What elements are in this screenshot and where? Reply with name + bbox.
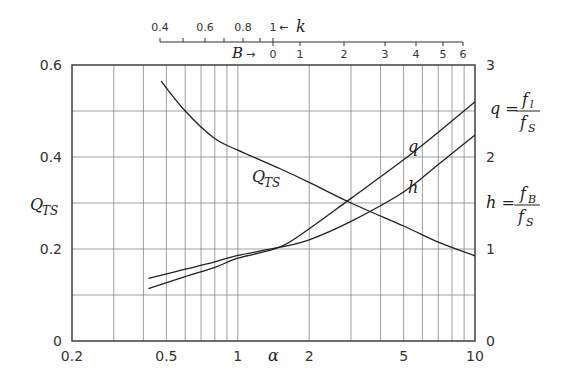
left-axis-label: Q TS [30, 195, 58, 218]
right-tick-label: 3 [486, 57, 495, 73]
left-tick-label: 0.6 [40, 57, 62, 73]
svg-text:q =: q = [490, 99, 519, 118]
svg-text:l: l [530, 98, 534, 111]
b-tick-label: 3 [382, 48, 389, 61]
svg-text:B: B [527, 193, 536, 206]
svg-text:TS: TS [42, 204, 58, 218]
gridlines [72, 65, 475, 341]
k-tick-label: 0.6 [196, 21, 214, 34]
k-tick-label: 1 [270, 21, 277, 34]
right-axis-label-q: q = f l f S [490, 90, 540, 135]
right-axis-label-h: h = f B f S [486, 184, 540, 229]
x-tick-label: 0.2 [61, 348, 83, 364]
top-axis: 0.40.60.810123456 [151, 21, 466, 61]
b-tick-label: 5 [440, 48, 447, 61]
left-tick-label: 0.2 [40, 241, 62, 257]
svg-text:S: S [528, 122, 536, 135]
x-tick-label: 5 [399, 348, 408, 364]
top-b-arrow: → [246, 48, 255, 61]
x-tick-label: 2 [305, 348, 314, 364]
k-tick-label: 0.8 [234, 21, 252, 34]
b-tick-label: 4 [413, 48, 420, 61]
left-tick-label: 0.4 [40, 149, 62, 165]
curve-label-h: h [408, 178, 418, 197]
b-tick-label: 2 [341, 48, 348, 61]
b-tick-label: 6 [460, 48, 467, 61]
right-tick-label: 2 [486, 149, 495, 165]
curve-label-q: q [408, 137, 418, 156]
curve-h [148, 135, 475, 279]
right-tick-label: 0 [486, 333, 495, 349]
top-k-label: k [296, 17, 306, 36]
curve-label-qts: Q TS [252, 167, 280, 190]
chart: 0.20.512510 00.20.40.6 0123 0.40.60.8101… [0, 0, 567, 381]
x-tick-label: 0.5 [155, 348, 177, 364]
top-b-label: B [231, 44, 243, 62]
svg-text:h =: h = [486, 193, 515, 212]
right-tick-label: 1 [486, 241, 495, 257]
k-tick-label: 0.4 [151, 21, 169, 34]
b-tick-label: 0 [270, 48, 277, 61]
svg-text:TS: TS [264, 176, 280, 190]
curve-q [148, 102, 475, 289]
x-tick-label: 10 [466, 348, 484, 364]
x-axis-label: α [268, 346, 279, 365]
x-tick-label: 1 [233, 348, 242, 364]
b-tick-label: 1 [297, 48, 304, 61]
curves [148, 81, 475, 289]
svg-text:S: S [526, 216, 534, 229]
curve-qts [161, 81, 475, 256]
left-tick-label: 0 [53, 333, 62, 349]
top-k-arrow: ← [279, 21, 288, 34]
